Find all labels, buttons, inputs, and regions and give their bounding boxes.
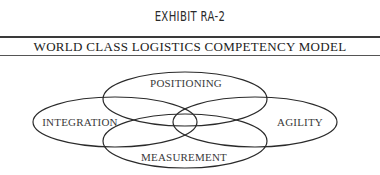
competency-diagram: POSITIONING INTEGRATION AGILITY MEASUREM…	[0, 0, 380, 175]
label-agility: AGILITY	[277, 116, 323, 128]
label-integration: INTEGRATION	[42, 116, 118, 128]
label-positioning: POSITIONING	[150, 77, 222, 89]
label-measurement: MEASUREMENT	[141, 151, 227, 163]
